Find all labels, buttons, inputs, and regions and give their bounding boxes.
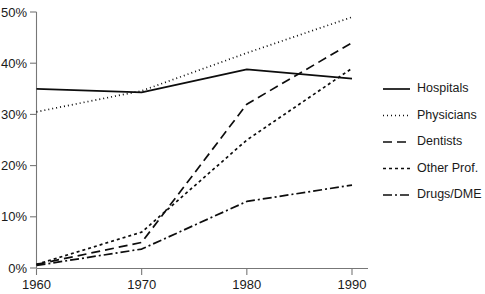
- y-tick-label: 40%: [1, 56, 27, 71]
- legend-label-other-prof: Other Prof.: [417, 161, 478, 175]
- plot-axes: [37, 12, 369, 269]
- chart-legend: HospitalsPhysiciansDentistsOther Prof.Dr…: [383, 81, 482, 201]
- legend-label-dentists: Dentists: [417, 134, 462, 148]
- series-line-hospitals: [37, 69, 353, 92]
- y-axis-ticks: 0%10%20%30%40%50%: [1, 5, 37, 276]
- y-tick-label: 50%: [1, 5, 27, 20]
- x-tick-label: 1960: [22, 277, 51, 292]
- series-line-dentists: [37, 43, 353, 265]
- x-axis-ticks: 1960197019801990: [22, 269, 366, 293]
- y-tick-label: 20%: [1, 158, 27, 173]
- legend-label-physicians: Physicians: [417, 108, 477, 122]
- chart-container: 0%10%20%30%40%50% 1960197019801990 Hospi…: [0, 0, 485, 294]
- series-lines: [37, 17, 353, 265]
- legend-label-hospitals: Hospitals: [417, 81, 468, 95]
- x-tick-label: 1980: [232, 277, 261, 292]
- y-tick-label: 30%: [1, 107, 27, 122]
- line-chart: 0%10%20%30%40%50% 1960197019801990 Hospi…: [0, 0, 485, 294]
- series-line-other-prof: [37, 68, 353, 264]
- legend-label-drugs-dme: Drugs/DME: [417, 187, 482, 201]
- y-tick-label: 0%: [8, 261, 27, 276]
- series-line-physicians: [37, 17, 353, 112]
- x-tick-label: 1970: [127, 277, 156, 292]
- x-tick-label: 1990: [338, 277, 367, 292]
- series-line-drugs-dme: [37, 185, 353, 265]
- y-tick-label: 10%: [1, 209, 27, 224]
